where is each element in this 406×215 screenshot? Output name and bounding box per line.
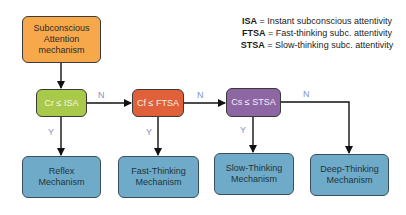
start-line-3: mechanism: [33, 45, 89, 56]
start-line-1: Subconscious: [33, 23, 89, 34]
decision-stsa-label: Cs ≤ STSA: [231, 97, 275, 108]
edge-label-n-1: N: [98, 90, 105, 100]
reflex-mechanism-node: Reflex Mechanism: [22, 156, 101, 198]
slow-line-1: Slow-Thinking: [226, 163, 283, 174]
decision-stsa-node: Cs ≤ STSA: [226, 88, 281, 117]
start-line-2: Attention: [33, 34, 89, 45]
decision-ftsa-label: Cf ≤ FTSA: [137, 98, 179, 109]
decision-isa-label: Cr ≤ ISA: [45, 98, 79, 109]
edge-label-y-1: Y: [48, 127, 54, 137]
fast-thinking-mechanism-node: Fast-Thinking Mechanism: [118, 156, 199, 198]
legend-row-stsa: STSA = Slow-thinking subc. attentivity: [232, 39, 402, 51]
slow-thinking-mechanism-node: Slow-Thinking Mechanism: [214, 153, 294, 195]
reflex-line-2: Mechanism: [38, 177, 84, 188]
reflex-line-1: Reflex: [38, 166, 84, 177]
legend-row-ftsa: FTSA = Fast-thinking subc. attentivity: [232, 27, 402, 39]
edge-label-y-2: Y: [146, 127, 152, 137]
edge-label-n-3: N: [303, 89, 310, 99]
abbreviation-legend: ISA = Instant subconscious attentivity F…: [232, 15, 402, 51]
edge-label-n-2: N: [197, 90, 204, 100]
fast-line-1: Fast-Thinking: [131, 166, 186, 177]
deep-line-1: Deep-Thinking: [320, 164, 379, 175]
decision-ftsa-node: Cf ≤ FTSA: [132, 89, 184, 117]
slow-line-2: Mechanism: [226, 174, 283, 185]
edge-label-y-3: Y: [240, 125, 246, 135]
subconscious-attention-node: Subconscious Attention mechanism: [22, 16, 101, 63]
fast-line-2: Mechanism: [131, 177, 186, 188]
legend-row-isa: ISA = Instant subconscious attentivity: [232, 15, 402, 27]
decision-isa-node: Cr ≤ ISA: [36, 89, 87, 117]
deep-line-2: Mechanism: [320, 175, 379, 186]
deep-thinking-mechanism-node: Deep-Thinking Mechanism: [310, 154, 389, 196]
